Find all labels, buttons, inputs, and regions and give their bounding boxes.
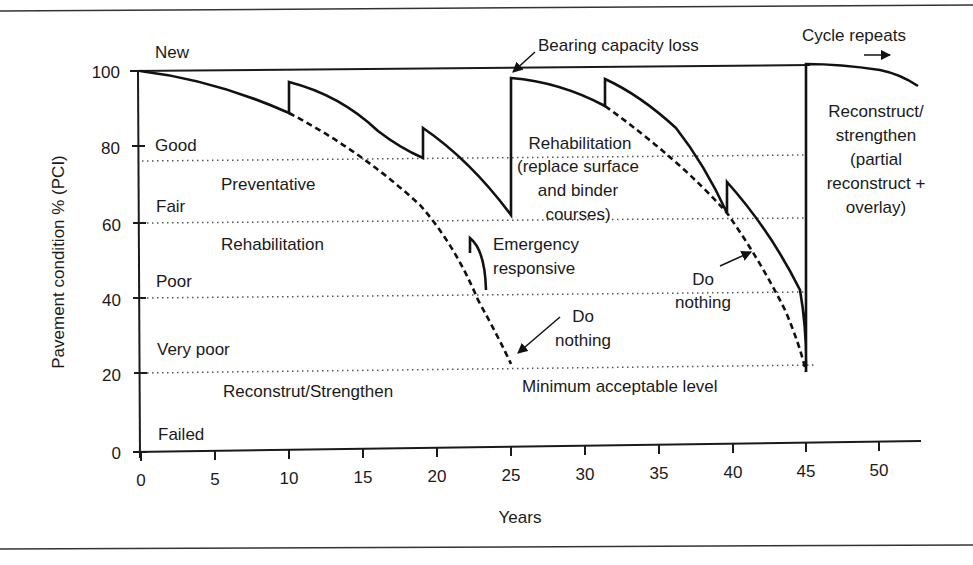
svg-text:25: 25 <box>502 466 521 485</box>
pavement-lifecycle-chart: 100 80 60 40 20 0 0 5 10 15 20 25 30 35 … <box>0 0 973 565</box>
svg-text:and binder: and binder <box>538 181 619 200</box>
top-rule <box>0 5 973 11</box>
svg-text:20: 20 <box>428 467 447 486</box>
good-threshold-line <box>142 155 805 161</box>
svg-text:Emergency: Emergency <box>493 235 579 254</box>
svg-text:20: 20 <box>102 366 121 385</box>
svg-text:(partial: (partial <box>850 150 902 169</box>
label-fair: Fair <box>156 197 186 216</box>
label-poor: Poor <box>156 272 192 291</box>
svg-text:0: 0 <box>136 471 145 490</box>
svg-text:Reconstruct/: Reconstruct/ <box>828 102 924 121</box>
y-axis <box>138 71 140 458</box>
svg-text:strengthen: strengthen <box>836 126 916 145</box>
svg-text:80: 80 <box>101 139 120 158</box>
svg-text:100: 100 <box>92 63 120 82</box>
svg-text:courses): courses) <box>545 205 610 224</box>
svg-text:60: 60 <box>102 216 121 235</box>
x-tick-labels: 0 5 10 15 20 25 30 35 40 45 50 <box>136 461 888 490</box>
do-nothing-curve-2 <box>605 106 806 372</box>
emergency-responsive-curve <box>470 238 486 290</box>
label-cycle-repeats: Cycle repeats <box>802 26 906 45</box>
x-axis <box>133 441 921 452</box>
svg-text:nothing: nothing <box>555 331 611 350</box>
x-axis-title: Years <box>499 508 542 527</box>
svg-text:30: 30 <box>576 465 595 484</box>
label-rehabilitation: Rehabilitation <box>221 235 324 254</box>
y-tick-labels: 100 80 60 40 20 0 <box>92 63 121 463</box>
do-nothing-arrow-2 <box>720 252 751 266</box>
label-emergency-responsive: Emergency responsive <box>493 235 579 278</box>
svg-text:40: 40 <box>102 291 121 310</box>
svg-text:0: 0 <box>112 444 121 463</box>
label-reconstrut-strengthen: Reconstrut/Strengthen <box>223 382 393 401</box>
maintained-pavement-curve <box>140 64 918 372</box>
fair-threshold-line <box>142 218 805 223</box>
label-do-nothing-1: Do nothing <box>555 307 611 350</box>
svg-text:responsive: responsive <box>493 259 575 278</box>
svg-text:35: 35 <box>650 464 669 483</box>
svg-text:Rehabilitation: Rehabilitation <box>528 134 631 153</box>
svg-text:Do: Do <box>572 307 594 326</box>
bottom-rule <box>0 545 973 549</box>
label-do-nothing-2: Do nothing <box>675 270 731 312</box>
svg-text:15: 15 <box>354 468 373 487</box>
svg-text:45: 45 <box>797 462 816 481</box>
svg-text:nothing: nothing <box>675 293 731 312</box>
label-failed: Failed <box>158 425 204 444</box>
label-new: New <box>155 43 190 62</box>
svg-text:10: 10 <box>280 469 299 488</box>
do-nothing-arrow-1 <box>518 317 560 353</box>
min-acceptable-line <box>142 365 815 373</box>
svg-text:Do: Do <box>692 270 714 289</box>
label-preventative: Preventative <box>221 175 316 194</box>
svg-text:(replace surface: (replace surface <box>517 157 639 176</box>
label-rehab-replace-surface: Rehabilitation (replace surface and bind… <box>517 134 639 224</box>
new-condition-line <box>130 65 810 71</box>
bearing-capacity-arrow <box>513 52 535 72</box>
svg-text:40: 40 <box>724 463 743 482</box>
svg-text:reconstruct +: reconstruct + <box>827 174 926 193</box>
label-reconstruct-strengthen-right: Reconstruct/ strengthen (partial reconst… <box>827 102 926 217</box>
label-very-poor: Very poor <box>157 340 230 359</box>
label-minimum-acceptable-level: Minimum acceptable level <box>522 377 718 396</box>
svg-text:overlay): overlay) <box>846 198 906 217</box>
svg-text:5: 5 <box>210 470 219 489</box>
svg-text:50: 50 <box>870 461 889 480</box>
y-axis-title: Pavement condition % (PCI) <box>49 155 68 369</box>
label-bearing-capacity-loss: Bearing capacity loss <box>538 36 699 55</box>
x-ticks <box>141 442 879 461</box>
label-good: Good <box>155 136 197 155</box>
